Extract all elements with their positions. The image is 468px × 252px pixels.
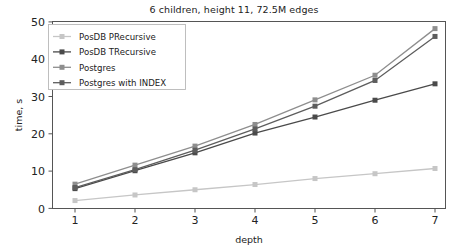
- x-tick-label: 2: [132, 214, 139, 227]
- data-point-marker: [73, 198, 78, 203]
- legend-marker: [60, 49, 65, 54]
- data-point-marker: [373, 73, 378, 78]
- data-point-marker: [313, 97, 318, 102]
- y-tick-label: 10: [31, 165, 45, 178]
- x-axis-tick-labels: 1 2 3 4 5 6 7: [72, 214, 439, 227]
- legend: PosDB PRecursivePosDB TRecursivePostgres…: [49, 25, 186, 90]
- data-point-marker: [313, 176, 318, 181]
- y-axis-tick-labels: 0 10 20 30 40 50: [31, 16, 45, 216]
- data-point-marker: [373, 98, 378, 103]
- legend-marker: [60, 34, 65, 39]
- data-point-marker: [253, 122, 258, 127]
- data-point-marker: [433, 26, 438, 31]
- data-point-marker: [253, 126, 258, 131]
- legend-marker: [60, 65, 65, 70]
- data-point-marker: [133, 192, 138, 197]
- data-point-marker: [133, 167, 138, 172]
- x-tick-label: 4: [252, 214, 259, 227]
- x-tick-marks: [75, 209, 435, 213]
- data-point-marker: [433, 166, 438, 171]
- x-tick-label: 7: [432, 214, 439, 227]
- legend-marker: [60, 80, 65, 85]
- y-tick-label: 20: [31, 128, 45, 141]
- x-axis-title: depth: [235, 234, 263, 245]
- x-tick-label: 1: [72, 214, 79, 227]
- chart-figure: 6 children, height 11, 72.5M edges 0 10 …: [0, 0, 468, 252]
- data-point-marker: [193, 148, 198, 153]
- data-point-marker: [253, 182, 258, 187]
- legend-label: PosDB PRecursive: [79, 32, 156, 42]
- legend-label: PosDB TRecursive: [79, 47, 156, 57]
- data-point-marker: [373, 171, 378, 176]
- plot-canvas: 0 10 20 30 40 50 1 2 3 4 5 6 7 d: [0, 0, 468, 252]
- data-point-marker: [373, 78, 378, 83]
- data-point-marker: [313, 115, 318, 120]
- data-point-marker: [433, 81, 438, 86]
- data-point-marker: [193, 187, 198, 192]
- y-tick-label: 40: [31, 53, 45, 66]
- data-point-marker: [73, 185, 78, 190]
- y-tick-label: 50: [31, 16, 45, 29]
- data-point-marker: [433, 34, 438, 39]
- legend-label: Postgres with INDEX: [79, 78, 166, 88]
- data-point-marker: [313, 104, 318, 109]
- y-tick-label: 0: [38, 203, 45, 216]
- legend-label: Postgres: [79, 63, 116, 73]
- y-tick-label: 30: [31, 91, 45, 104]
- x-tick-label: 3: [192, 214, 199, 227]
- data-point-marker: [133, 163, 138, 168]
- y-axis-title: time, s: [13, 99, 24, 132]
- x-tick-label: 6: [372, 214, 379, 227]
- x-tick-label: 5: [312, 214, 319, 227]
- series-1: [73, 81, 438, 191]
